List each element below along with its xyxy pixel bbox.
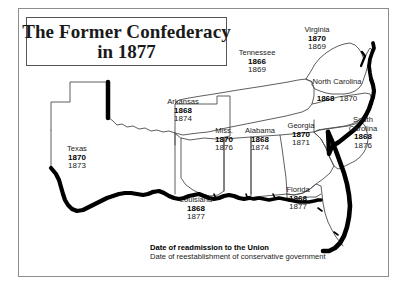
state-conservative-year-virginia: 1869 (294, 43, 340, 52)
state-years-north-carolina: 18681870 (303, 87, 371, 105)
state-label-south-carolina[interactable]: South Carolina 1868 1876 (340, 116, 386, 151)
state-label-louisiana[interactable]: Louisiana 1868 1877 (165, 196, 227, 222)
state-conservative-year-north-carolina: 1870 (340, 94, 358, 103)
confederacy-1877-map-figure: The Former Confederacy in 1877 Texas 187… (0, 0, 409, 294)
state-label-virginia[interactable]: Virginia 1870 1869 (294, 26, 340, 52)
state-label-alabama[interactable]: Alabama 1868 1874 (237, 127, 283, 153)
state-label-georgia[interactable]: Georgia 1870 1871 (279, 122, 323, 148)
coastline-texas-gulf (51, 168, 153, 211)
state-conservative-year-georgia: 1871 (279, 139, 323, 148)
state-label-arkansas[interactable]: Arkansas 1868 1874 (153, 98, 213, 124)
state-label-florida[interactable]: Florida 1868 1877 (277, 186, 319, 212)
state-label-texas[interactable]: Texas 1870 1873 (47, 145, 107, 171)
state-conservative-year-arkansas: 1874 (153, 115, 213, 124)
state-conservative-year-south-carolina: 1876 (340, 142, 386, 151)
state-conservative-year-florida: 1877 (277, 203, 319, 212)
map-title-line-2: in 1877 (97, 42, 156, 61)
state-readmission-year-north-carolina: 1868 (317, 94, 335, 103)
state-conservative-year-texas: 1873 (47, 162, 107, 171)
map-title-box: The Former Confederacy in 1877 (26, 17, 227, 66)
legend-readmission-label: Date of readmission to the Union (150, 243, 326, 252)
state-label-north-carolina[interactable]: North Carolina 18681870 (303, 78, 371, 104)
state-conservative-year-tennessee: 1869 (229, 66, 285, 75)
legend-conservative-label: Date of reestablishment of conservative … (150, 252, 326, 261)
state-conservative-year-alabama: 1874 (237, 144, 283, 153)
state-name-north-carolina: North Carolina (303, 78, 371, 87)
map-title-line-1: The Former Confederacy (22, 22, 231, 41)
state-label-tennessee[interactable]: Tennessee 1866 1869 (229, 49, 285, 75)
map-legend: Date of readmission to the Union Date of… (150, 243, 326, 262)
coastline-north-carolina-atlantic (371, 79, 374, 103)
state-conservative-year-louisiana: 1877 (165, 213, 227, 222)
